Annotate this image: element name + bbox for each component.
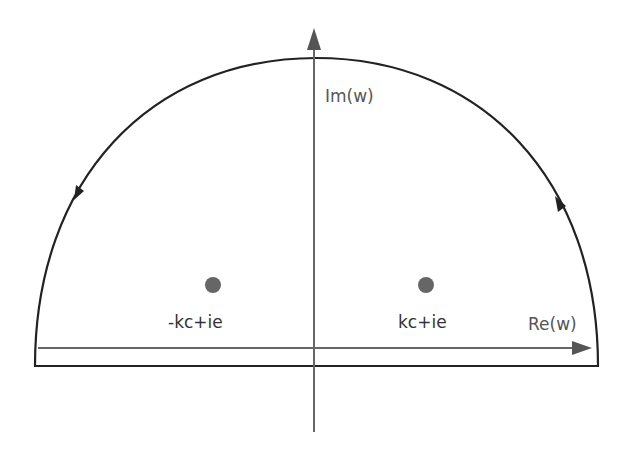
left-arc-arrow-icon	[74, 185, 84, 200]
real-axis-arrow-icon	[572, 341, 592, 355]
contour-diagram	[0, 0, 624, 464]
pole-left-dot	[205, 277, 221, 293]
real-axis-label: Re(w)	[528, 316, 577, 333]
pole-left-label: -kc+ie	[168, 314, 223, 331]
contour-arc	[35, 58, 598, 366]
imaginary-axis-arrow-icon	[307, 28, 321, 50]
pole-right-dot	[418, 277, 434, 293]
imaginary-axis-label: Im(w)	[325, 88, 374, 105]
pole-right-label: kc+ie	[398, 314, 447, 331]
